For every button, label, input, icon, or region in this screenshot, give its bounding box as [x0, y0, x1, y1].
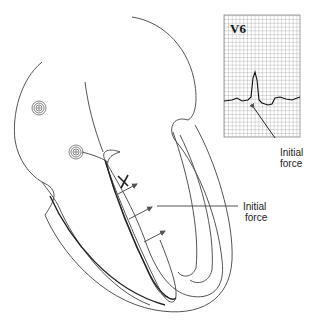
septum-initial-force-label: Initial force — [243, 201, 267, 223]
av-node-icon — [69, 145, 83, 159]
heart-outline — [14, 17, 196, 182]
sa-node-icon — [32, 101, 46, 115]
heart-conduction-diagram — [0, 0, 316, 326]
ecg-lead-label: V6 — [230, 21, 246, 37]
ecg-initial-force-label: Initial force — [280, 147, 303, 169]
